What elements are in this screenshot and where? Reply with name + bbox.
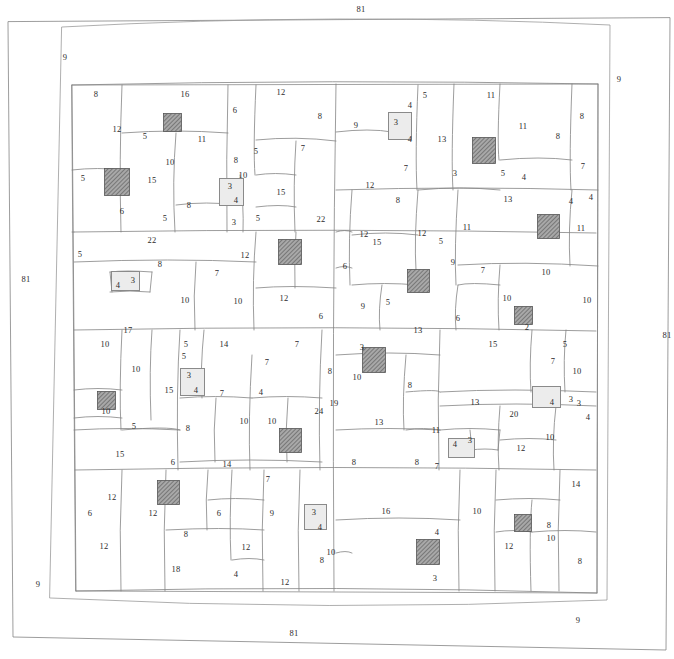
dimension-label: 10 bbox=[542, 268, 551, 277]
dimension-label: 10 bbox=[132, 365, 141, 374]
dimension-label: 6 bbox=[233, 106, 237, 115]
dimension-label: 81 bbox=[290, 629, 299, 638]
dimension-label: 12 bbox=[281, 578, 290, 587]
dimension-label: 15 bbox=[489, 340, 498, 349]
dimension-label: 4 bbox=[234, 570, 238, 579]
dimension-label: 15 bbox=[116, 450, 125, 459]
hatched-shaft bbox=[163, 113, 182, 132]
dimension-label: 13 bbox=[471, 398, 480, 407]
dimension-label: 11 bbox=[487, 91, 496, 100]
dimension-label: 10 bbox=[102, 407, 111, 416]
dimension-label: 4 bbox=[589, 193, 593, 202]
dimension-label: 8 bbox=[187, 201, 191, 210]
hatched-shaft bbox=[514, 514, 532, 532]
dimension-label: 13 bbox=[504, 195, 513, 204]
dimension-label: 4 bbox=[259, 388, 263, 397]
dimension-label: 3 bbox=[232, 218, 236, 227]
dimension-label: 12 bbox=[100, 542, 109, 551]
dimension-label: 9 bbox=[36, 580, 40, 589]
dimension-label: 3 bbox=[131, 276, 135, 285]
dimension-label: 5 bbox=[81, 174, 85, 183]
dimension-label: 10 bbox=[547, 534, 556, 543]
dimension-label: 5 bbox=[501, 169, 505, 178]
floor-plan-geometry bbox=[0, 0, 674, 659]
dimension-label: 3 bbox=[394, 118, 398, 127]
dimension-label: 9 bbox=[354, 121, 358, 130]
dimension-label: 10 bbox=[353, 373, 362, 382]
dimension-label: 10 bbox=[473, 507, 482, 516]
dimension-label: 8 bbox=[352, 458, 356, 467]
dimension-label: 5 bbox=[163, 214, 167, 223]
dimension-label: 4 bbox=[522, 173, 526, 182]
dimension-label: 3 bbox=[453, 169, 457, 178]
dimension-label: 8 bbox=[328, 367, 332, 376]
dimension-label: 8 bbox=[186, 424, 190, 433]
dimension-label: 15 bbox=[148, 176, 157, 185]
dimension-label: 81 bbox=[663, 331, 672, 340]
dimension-label: 5 bbox=[132, 422, 136, 431]
dimension-label: 7 bbox=[435, 462, 439, 471]
dimension-label: 8 bbox=[415, 458, 419, 467]
dimension-label: 5 bbox=[386, 298, 390, 307]
dimension-label: 9 bbox=[617, 75, 621, 84]
dimension-label: 7 bbox=[265, 358, 269, 367]
dimension-label: 8 bbox=[184, 530, 188, 539]
hatched-shaft bbox=[416, 539, 440, 565]
dimension-label: 15 bbox=[165, 386, 174, 395]
dimension-label: 6 bbox=[217, 509, 221, 518]
dimension-label: 12 bbox=[366, 181, 375, 190]
dimension-label: 4 bbox=[116, 281, 120, 290]
dimension-label: 8 bbox=[318, 112, 322, 121]
dimension-label: 14 bbox=[220, 340, 229, 349]
dimension-label: 22 bbox=[317, 215, 326, 224]
dimension-label: 4 bbox=[586, 413, 590, 422]
dimension-label: 7 bbox=[215, 269, 219, 278]
dimension-label: 18 bbox=[172, 565, 181, 574]
dimension-label: 12 bbox=[418, 229, 427, 238]
dimension-label: 4 bbox=[435, 528, 439, 537]
dimension-label: 8 bbox=[578, 557, 582, 566]
dimension-label: 3 bbox=[569, 395, 573, 404]
dimension-label: 16 bbox=[181, 90, 190, 99]
dimension-label: 10 bbox=[327, 548, 336, 557]
dimension-label: 19 bbox=[330, 399, 339, 408]
dimension-label: 8 bbox=[396, 196, 400, 205]
dimension-label: 10 bbox=[573, 367, 582, 376]
dimension-label: 8 bbox=[158, 260, 162, 269]
hatched-shaft bbox=[278, 239, 302, 265]
dimension-label: 6 bbox=[120, 207, 124, 216]
dimension-label: 12 bbox=[280, 294, 289, 303]
dimension-label: 8 bbox=[580, 112, 584, 121]
dimension-label: 6 bbox=[88, 509, 92, 518]
dimension-label: 3 bbox=[360, 343, 364, 352]
dimension-label: 6 bbox=[343, 262, 347, 271]
dimension-label: 5 bbox=[182, 352, 186, 361]
dimension-label: 5 bbox=[563, 340, 567, 349]
dimension-label: 3 bbox=[312, 508, 316, 517]
dimension-label: 9 bbox=[361, 302, 365, 311]
dimension-label: 10 bbox=[268, 417, 277, 426]
dimension-label: 6 bbox=[456, 314, 460, 323]
dimension-label: 10 bbox=[240, 417, 249, 426]
dimension-label: 8 bbox=[556, 132, 560, 141]
dimension-label: 5 bbox=[78, 250, 82, 259]
dimension-label: 16 bbox=[382, 507, 391, 516]
dimension-label: 81 bbox=[22, 275, 31, 284]
dimension-label: 10 bbox=[583, 296, 592, 305]
dimension-label: 11 bbox=[519, 122, 528, 131]
dimension-label: 4 bbox=[318, 523, 322, 532]
dimension-label: 3 bbox=[187, 371, 191, 380]
dimension-label: 4 bbox=[550, 398, 554, 407]
dimension-label: 12 bbox=[149, 509, 158, 518]
dimension-label: 3 bbox=[228, 182, 232, 191]
dimension-label: 9 bbox=[270, 509, 274, 518]
dimension-label: 4 bbox=[569, 197, 573, 206]
dimension-label: 12 bbox=[360, 230, 369, 239]
hatched-shaft bbox=[537, 214, 560, 239]
dimension-label: 12 bbox=[242, 543, 251, 552]
dimension-label: 8 bbox=[94, 90, 98, 99]
dimension-label: 14 bbox=[572, 480, 581, 489]
dimension-label: 22 bbox=[148, 236, 157, 245]
dimension-label: 8 bbox=[234, 156, 238, 165]
dimension-label: 12 bbox=[277, 88, 286, 97]
